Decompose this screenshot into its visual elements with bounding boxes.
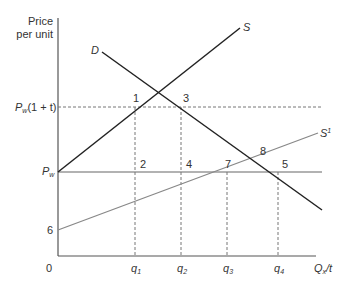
y-axis-label-line2: per unit	[16, 28, 53, 40]
q2-label: q2	[177, 262, 187, 275]
q4-label: q4	[274, 262, 284, 275]
pw-tariff-label: Pw(1 + t)	[15, 101, 56, 114]
q3-label: q3	[223, 262, 233, 275]
y-axis-label-line1: Price	[28, 15, 53, 27]
q1-label: q1	[131, 262, 141, 275]
point-8: 8	[260, 145, 266, 157]
supply-prime-label: S1	[320, 127, 331, 139]
supply-label: S	[243, 21, 251, 33]
point-4: 4	[186, 158, 192, 170]
demand-curve	[102, 52, 322, 210]
demand-label: D	[91, 44, 99, 56]
supply-prime-curve	[58, 133, 318, 230]
point-2: 2	[140, 158, 146, 170]
pw-label: Pw	[42, 165, 55, 178]
point-7: 7	[225, 158, 231, 170]
point-1: 1	[133, 92, 139, 104]
point-3: 3	[183, 92, 189, 104]
origin-label: 0	[46, 262, 52, 274]
point-5: 5	[282, 158, 288, 170]
supply-curve	[58, 28, 240, 172]
tick-6: 6	[47, 224, 53, 236]
x-axis-label: Qx/t	[314, 262, 333, 275]
trade-diagram: Price per unit Pw(1 + t) Pw 6 0 q1 q2 q3…	[0, 0, 345, 288]
